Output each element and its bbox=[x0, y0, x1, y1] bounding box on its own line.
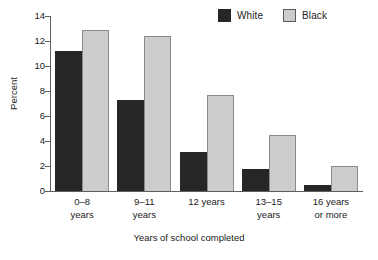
x-axis-category-label-line: 12 years bbox=[175, 196, 237, 209]
y-axis-tick bbox=[45, 91, 50, 92]
x-axis-category-label: 13–15years bbox=[238, 196, 300, 228]
bar-groups bbox=[51, 16, 362, 191]
x-axis-category-label: 16 yearsor more bbox=[300, 196, 362, 228]
y-axis-tick-label: 8 bbox=[23, 86, 45, 96]
bar-group bbox=[51, 16, 113, 191]
bar-group bbox=[238, 16, 300, 191]
x-axis-category-label-line: years bbox=[51, 209, 113, 222]
x-axis-category-label-line: 0–8 bbox=[51, 196, 113, 209]
x-axis-category-label-line: years bbox=[238, 209, 300, 222]
y-axis-tick bbox=[45, 16, 50, 17]
x-axis-line bbox=[50, 191, 363, 192]
y-axis-tick bbox=[45, 66, 50, 67]
bar-white bbox=[242, 169, 269, 192]
y-axis-tick-labels: 02468101214 bbox=[17, 16, 45, 191]
x-axis-category-label-line: years bbox=[113, 209, 175, 222]
x-axis-category-label-line: 9–11 bbox=[113, 196, 175, 209]
x-axis-category-label: 0–8years bbox=[51, 196, 113, 228]
y-axis-tick-label: 14 bbox=[23, 11, 45, 21]
y-axis-tick bbox=[45, 166, 50, 167]
x-axis-category-label-line: 13–15 bbox=[238, 196, 300, 209]
y-axis-tick-label: 0 bbox=[23, 186, 45, 196]
bar-group bbox=[300, 16, 362, 191]
bar-black bbox=[269, 135, 296, 191]
bar-white bbox=[55, 51, 82, 191]
bar-white bbox=[304, 185, 331, 191]
y-axis-tick bbox=[45, 141, 50, 142]
bar-chart-figure: White Black Percent 02468101214 0–8years… bbox=[0, 0, 378, 260]
y-axis-tick bbox=[45, 41, 50, 42]
x-axis-category-labels: 0–8years9–11years12 years13–15years16 ye… bbox=[51, 196, 362, 228]
x-axis-title: Years of school completed bbox=[0, 232, 378, 243]
bar-black bbox=[144, 36, 171, 191]
bar-black bbox=[82, 30, 109, 191]
y-axis-tick bbox=[45, 116, 50, 117]
bar-group bbox=[175, 16, 237, 191]
y-axis-tick-label: 12 bbox=[23, 36, 45, 46]
bar-white bbox=[180, 152, 207, 191]
plot-area: 02468101214 bbox=[50, 16, 362, 191]
bar-white bbox=[117, 100, 144, 191]
x-axis-category-label-line: 16 years bbox=[300, 196, 362, 209]
y-axis-tick-label: 2 bbox=[23, 161, 45, 171]
y-axis-tick bbox=[45, 191, 50, 192]
x-axis-category-label: 9–11years bbox=[113, 196, 175, 228]
bar-group bbox=[113, 16, 175, 191]
bar-black bbox=[207, 95, 234, 191]
x-axis-category-label: 12 years bbox=[175, 196, 237, 228]
x-axis-category-label-line: or more bbox=[300, 209, 362, 222]
y-axis-tick-label: 6 bbox=[23, 111, 45, 121]
y-axis-tick-label: 10 bbox=[23, 61, 45, 71]
bar-black bbox=[331, 166, 358, 191]
y-axis-tick-label: 4 bbox=[23, 136, 45, 146]
